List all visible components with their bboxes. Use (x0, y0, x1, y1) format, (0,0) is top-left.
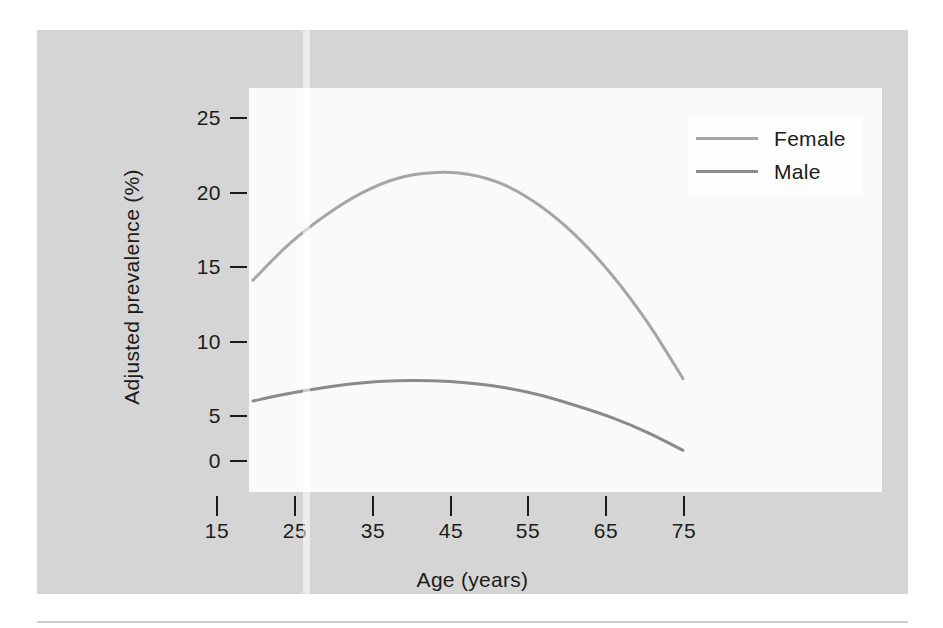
x-tick-label: 35 (361, 519, 385, 543)
x-tick-mark (372, 496, 374, 516)
figure-panel: 25 20 15 10 5 0 Adjusted prevalence (%) (37, 30, 908, 594)
y-tick-mark (230, 341, 247, 343)
legend-item-female: Female (696, 122, 846, 155)
x-tick-mark (527, 496, 529, 516)
legend-item-male: Male (696, 155, 846, 188)
y-tick-label: 10 (197, 330, 221, 354)
x-tick-mark (450, 496, 452, 516)
y-tick-label: 20 (197, 181, 221, 205)
x-tick-mark (605, 496, 607, 516)
y-tick-mark (230, 266, 247, 268)
scanned-page: 25 20 15 10 5 0 Adjusted prevalence (%) (0, 0, 943, 628)
y-tick-25: 25 (177, 109, 247, 127)
y-tick-label: 5 (209, 404, 221, 428)
y-axis-title: Adjusted prevalence (%) (120, 117, 144, 457)
y-tick-mark (230, 460, 247, 462)
x-tick-mark (683, 496, 685, 516)
legend-swatch-male (696, 170, 758, 173)
y-tick-0: 0 (177, 452, 247, 470)
y-tick-label: 0 (209, 449, 221, 473)
y-tick-mark (230, 415, 247, 417)
x-tick-label: 25 (283, 519, 307, 543)
y-tick-mark (230, 117, 247, 119)
series-line-male (253, 381, 683, 451)
page-rule (37, 621, 908, 623)
chart-legend: Female Male (688, 116, 862, 196)
x-tick-mark (216, 496, 218, 516)
legend-label: Female (774, 127, 846, 151)
y-tick-mark (230, 192, 247, 194)
y-tick-label: 25 (197, 106, 221, 130)
x-tick-label: 45 (439, 519, 463, 543)
x-axis-title: Age (years) (37, 568, 908, 592)
x-tick-label: 55 (516, 519, 540, 543)
series-line-female (253, 172, 683, 378)
legend-label: Male (774, 160, 821, 184)
y-tick-20: 20 (177, 184, 247, 202)
y-tick-15: 15 (177, 258, 247, 276)
y-tick-10: 10 (177, 333, 247, 351)
x-tick-label: 65 (594, 519, 618, 543)
legend-swatch-female (696, 137, 758, 140)
x-tick-label: 75 (672, 519, 696, 543)
x-tick-label: 15 (205, 519, 229, 543)
y-tick-5: 5 (177, 407, 247, 425)
y-tick-label: 15 (197, 255, 221, 279)
x-tick-mark (294, 496, 296, 516)
